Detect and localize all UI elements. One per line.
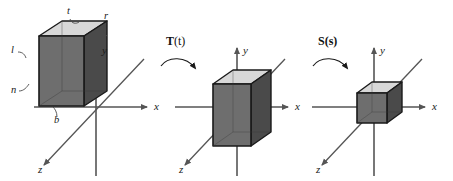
frustum-box-small xyxy=(357,82,402,123)
y-axis-label: y xyxy=(242,44,248,56)
leader-l xyxy=(18,52,26,58)
x-axis-label: x xyxy=(153,100,159,112)
frustum-box-medium xyxy=(213,70,271,146)
leader-n xyxy=(19,84,29,91)
figure-canvas: t r l n b x y z T(t) xyxy=(0,0,453,181)
z-axis-label: z xyxy=(37,163,43,175)
panel-original: t r l n b x y z xyxy=(11,5,159,176)
z-axis-label: z xyxy=(178,163,184,175)
box-right-face xyxy=(251,70,271,146)
x-axis-label: x xyxy=(294,100,300,112)
label-t: t xyxy=(67,5,71,16)
translate-argument: (t) xyxy=(174,34,185,48)
label-n: n xyxy=(11,84,16,95)
label-r: r xyxy=(104,10,109,21)
box-right-face xyxy=(84,21,107,106)
translate-operation: T(t) xyxy=(161,34,195,68)
frustum-box-large xyxy=(39,21,107,106)
label-b: b xyxy=(54,114,59,125)
box-front-face xyxy=(39,36,84,106)
scale-label: S(s) xyxy=(318,34,337,48)
scale-argument: (s) xyxy=(325,34,338,48)
panel-scaled: x y z xyxy=(312,44,437,176)
label-l: l xyxy=(11,44,14,55)
x-axis-label: x xyxy=(431,100,437,112)
y-axis-label: y xyxy=(101,44,107,56)
scale-operation: S(s) xyxy=(313,34,347,68)
diagram-svg: t r l n b x y z T(t) xyxy=(0,0,453,181)
translate-label: T(t) xyxy=(166,34,185,48)
translate-symbol: T xyxy=(166,34,174,48)
y-axis-label: y xyxy=(379,44,385,56)
z-axis-label: z xyxy=(315,163,321,175)
panel-translated: x y z xyxy=(175,44,300,176)
scale-arrow xyxy=(313,59,347,68)
box-front-face xyxy=(213,84,251,146)
translate-arrow xyxy=(161,59,195,68)
